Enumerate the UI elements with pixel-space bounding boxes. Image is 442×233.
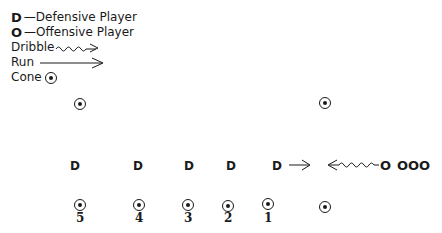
cone-icon (263, 199, 274, 210)
defender-2: D (226, 159, 236, 173)
cone-icon (75, 200, 86, 211)
cone-number-2: 2 (224, 211, 232, 225)
cone-icon (223, 201, 234, 212)
cone-icon (134, 200, 145, 211)
offensive-waiting-line: OOO (397, 158, 430, 173)
drill-diagram: D D D D D O OOO 5 4 3 2 1 (0, 0, 442, 233)
cone-icon (320, 98, 331, 109)
defender-5: D (70, 159, 80, 173)
defender-4: D (133, 159, 143, 173)
run-arrow-icon (289, 160, 310, 170)
cone-number-4: 4 (135, 211, 143, 225)
cone-icon (75, 99, 86, 110)
defender-3: D (184, 159, 194, 173)
cone-icon (183, 200, 194, 211)
dribble-arrow-icon (328, 160, 379, 170)
defender-1: D (272, 159, 282, 173)
cone-icon (320, 202, 331, 213)
cone-number-5: 5 (76, 211, 84, 225)
cone-number-3: 3 (184, 211, 192, 225)
cone-number-1: 1 (264, 211, 272, 225)
offensive-dribbler: O (380, 158, 391, 173)
